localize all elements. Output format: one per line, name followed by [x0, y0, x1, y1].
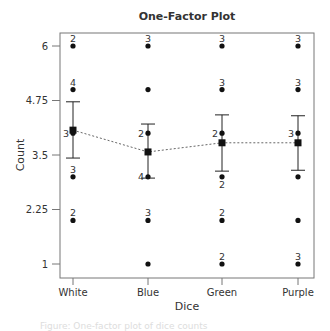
mean-marker [295, 139, 302, 146]
count-label: 3 [145, 33, 151, 44]
data-point [70, 218, 75, 223]
data-points: 2433232433322223333 [63, 33, 301, 267]
data-point [295, 261, 300, 266]
y-tick-label: 6 [42, 41, 48, 52]
x-tick-label: Blue [137, 287, 159, 298]
data-point [145, 174, 150, 179]
data-point [295, 218, 300, 223]
x-tick-label: Green [207, 287, 237, 298]
data-point [219, 43, 224, 48]
chart-title: One-Factor Plot [139, 10, 236, 23]
data-point [70, 174, 75, 179]
count-label: 3 [63, 128, 69, 139]
count-label: 3 [219, 77, 225, 88]
data-point [295, 174, 300, 179]
mean-marker [70, 127, 77, 134]
y-axis: 12.253.54.756 [26, 41, 60, 270]
count-label: 2 [219, 179, 225, 190]
count-label: 3 [288, 128, 294, 139]
count-label: 2 [70, 207, 76, 218]
footer-caption: Figure: One-factor plot of dice counts [40, 321, 207, 331]
data-point [145, 87, 150, 92]
x-tick-label: Purple [282, 287, 314, 298]
count-label: 2 [219, 207, 225, 218]
count-label: 2 [138, 128, 144, 139]
data-point [145, 218, 150, 223]
data-point [219, 131, 224, 136]
y-tick-label: 1 [42, 259, 48, 270]
one-factor-plot: One-Factor Plot 12.253.54.756 WhiteBlueG… [0, 0, 330, 331]
data-point [219, 261, 224, 266]
y-axis-label: Count [14, 138, 27, 171]
count-label: 2 [212, 128, 218, 139]
mean-marker [219, 139, 226, 146]
mean-connect-line [73, 130, 298, 152]
count-label: 3 [70, 164, 76, 175]
mean-markers [70, 127, 302, 156]
data-point [295, 131, 300, 136]
count-label: 3 [219, 33, 225, 44]
count-label: 3 [295, 251, 301, 262]
data-point [219, 87, 224, 92]
data-point [145, 131, 150, 136]
x-axis-label: Dice [175, 300, 200, 313]
x-axis: WhiteBlueGreenPurple [58, 278, 313, 298]
data-point [145, 261, 150, 266]
mean-marker [145, 148, 152, 155]
count-label: 4 [70, 77, 76, 88]
count-label: 3 [145, 207, 151, 218]
error-bars [66, 102, 305, 178]
data-point [145, 43, 150, 48]
data-point [70, 43, 75, 48]
count-label: 3 [295, 33, 301, 44]
plot-frame [60, 33, 314, 278]
count-label: 2 [219, 251, 225, 262]
y-tick-label: 4.75 [26, 95, 48, 106]
y-tick-label: 3.5 [32, 150, 48, 161]
count-label: 2 [70, 33, 76, 44]
data-point [219, 218, 224, 223]
count-label: 4 [138, 171, 144, 182]
data-point [295, 43, 300, 48]
x-tick-label: White [58, 287, 87, 298]
y-tick-label: 2.25 [26, 204, 48, 215]
data-point [70, 87, 75, 92]
data-point [295, 87, 300, 92]
count-label: 3 [295, 77, 301, 88]
